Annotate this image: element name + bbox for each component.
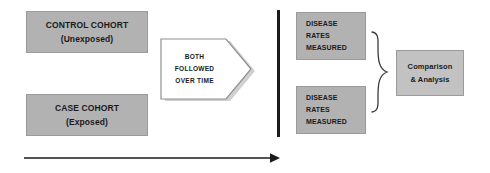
cohort-study-diagram: CONTROL COHORT (Unexposed) CASE COHORT (… xyxy=(0,0,490,173)
measurement-top-box[interactable]: DISEASE RATES MEASURED xyxy=(296,12,366,60)
followup-arrow-line-2: FOLLOWED xyxy=(175,63,215,75)
right-curly-brace-icon xyxy=(369,30,391,114)
measurement-bottom-line-3: MEASURED xyxy=(306,116,347,128)
analysis-line-1: Comparison xyxy=(408,60,453,73)
control-cohort-line-1: CONTROL COHORT xyxy=(46,18,128,32)
case-cohort-line-1: CASE COHORT xyxy=(55,101,119,115)
followup-arrow-shape[interactable]: BOTH FOLLOWED OVER TIME xyxy=(160,37,256,101)
measurement-top-line-3: MEASURED xyxy=(306,42,347,54)
followup-arrow-labels: BOTH FOLLOWED OVER TIME xyxy=(160,37,229,101)
timeline-right-arrow-icon xyxy=(22,150,282,166)
measurement-top-line-2: RATES xyxy=(306,30,330,42)
case-cohort-line-2: (Exposed) xyxy=(66,115,108,129)
measurement-bottom-box[interactable]: DISEASE RATES MEASURED xyxy=(296,86,366,134)
followup-arrow-line-3: OVER TIME xyxy=(175,75,213,87)
analysis-line-2: & Analysis xyxy=(410,73,449,86)
measurement-bottom-line-2: RATES xyxy=(306,104,330,116)
vertical-divider-bar-icon xyxy=(277,10,280,137)
measurement-top-line-1: DISEASE xyxy=(306,18,337,30)
analysis-box[interactable]: Comparison & Analysis xyxy=(396,50,464,96)
followup-arrow-line-1: BOTH xyxy=(185,51,205,63)
control-cohort-box[interactable]: CONTROL COHORT (Unexposed) xyxy=(26,11,148,53)
control-cohort-line-2: (Unexposed) xyxy=(61,32,114,46)
measurement-bottom-line-1: DISEASE xyxy=(306,92,337,104)
case-cohort-box[interactable]: CASE COHORT (Exposed) xyxy=(26,94,148,136)
